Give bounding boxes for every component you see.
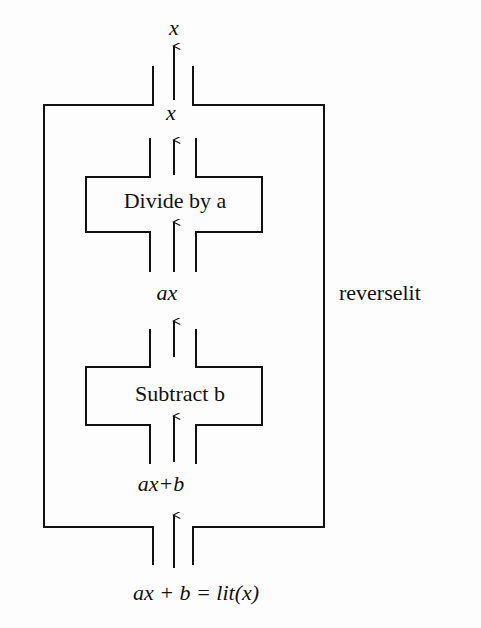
divide-output-label: x [166,102,176,124]
input-equation: ax + b = lit(x) [133,580,259,605]
output-top-label: x [169,17,179,39]
subtract-output-label: ax [157,282,178,304]
input-bottom-label: ax + b = lit(x) [133,582,259,604]
diagram-canvas [0,0,481,628]
subtract-b-label: Subtract b [135,383,225,405]
outer-block-label: reverselit [339,282,421,304]
subtract-input-label: ax+b [138,473,185,495]
divide-by-a-label: Divide by a [124,190,227,212]
